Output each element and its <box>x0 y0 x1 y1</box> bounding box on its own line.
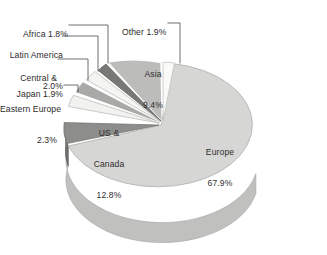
label-europe-line2: 67.9% <box>196 178 244 188</box>
label-asia: Asia 9.4% <box>131 49 175 131</box>
label-asia-line1: Asia <box>131 69 175 79</box>
label-us-canada-line2: Canada <box>85 159 133 169</box>
label-asia-line2: 9.4% <box>131 100 175 110</box>
label-japan: Japan 1.9% <box>2 79 63 110</box>
label-europe-line1: Europe <box>196 147 244 157</box>
leader-line-latin-america <box>64 36 98 71</box>
label-japan-text: Japan 1.9% <box>17 89 63 99</box>
label-other-text: Other 1.9% <box>122 27 166 37</box>
label-us-canada-line3: 12.8% <box>85 190 133 200</box>
label-central-eastern-europe-line3: 2.3% <box>0 135 57 145</box>
label-other: Other 1.9% <box>112 17 168 48</box>
label-us-canada-line1: US & <box>85 128 133 138</box>
label-europe: Europe 67.9% <box>196 127 244 209</box>
leader-line-japan <box>64 85 78 92</box>
pie-chart-figure: Africa 1.8% Latin America 2.0% Central &… <box>0 0 327 255</box>
leader-line-africa <box>69 25 108 63</box>
label-us-canada: US & Canada 12.8% <box>85 108 133 220</box>
